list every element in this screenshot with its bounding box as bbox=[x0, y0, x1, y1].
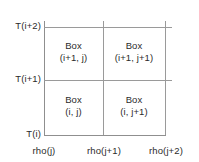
cell-label-box-i1-j1: Box (i+1, j+1) bbox=[103, 40, 165, 64]
cell-label-box-i-j1: Box (i, j+1) bbox=[103, 94, 165, 118]
gridline-horizontal-t-i2 bbox=[44, 27, 172, 28]
y-tick-label-t-i2: T(i+2) bbox=[0, 21, 41, 31]
x-tick-label-rho-j: rho(j) bbox=[17, 146, 71, 156]
y-tick-label-t-i1: T(i+1) bbox=[0, 74, 41, 84]
cell-label-box-i-j: Box (i, j) bbox=[44, 94, 103, 118]
gridline-horizontal-t-i bbox=[44, 135, 166, 136]
gridline-vertical-rho-j2 bbox=[165, 21, 166, 136]
cell-label-box-i1-j: Box (i+1, j) bbox=[44, 40, 103, 64]
gridline-horizontal-t-i1 bbox=[44, 80, 172, 81]
cell-label-box-i-j-line1: Box bbox=[44, 94, 103, 106]
cell-label-box-i-j1-line1: Box bbox=[103, 94, 165, 106]
cell-label-box-i1-j-line1: Box bbox=[44, 40, 103, 52]
cell-label-box-i1-j-line2: (i+1, j) bbox=[44, 52, 103, 64]
x-tick-label-rho-j1: rho(j+1) bbox=[75, 146, 133, 156]
cell-label-box-i-j-line2: (i, j) bbox=[44, 106, 103, 118]
cell-label-box-i1-j1-line2: (i+1, j+1) bbox=[103, 52, 165, 64]
x-tick-label-rho-j2: rho(j+2) bbox=[137, 146, 195, 156]
gridline-vertical-rho-j bbox=[44, 21, 45, 136]
grid-diagram: T(i+2) T(i+1) T(i) rho(j) rho(j+1) rho(j… bbox=[0, 0, 199, 162]
gridline-vertical-rho-j1 bbox=[103, 21, 104, 136]
cell-label-box-i1-j1-line1: Box bbox=[103, 40, 165, 52]
y-tick-label-t-i: T(i) bbox=[0, 129, 41, 139]
cell-label-box-i-j1-line2: (i, j+1) bbox=[103, 106, 165, 118]
